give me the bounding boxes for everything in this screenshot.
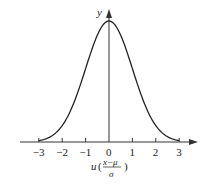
x-tick-label: 3 (176, 146, 182, 158)
x-axis-label-numerator: x−μ (102, 157, 118, 167)
x-axis-label-paren-open: ( (98, 160, 102, 173)
x-axis-label-paren-close: ) (124, 160, 128, 173)
x-ticks: −3−2−10123 (33, 138, 182, 158)
x-tick-label: −1 (80, 146, 92, 158)
x-tick-label: −2 (56, 146, 68, 158)
x-tick-label: 2 (153, 146, 159, 158)
y-axis-arrow-icon (106, 9, 112, 18)
normal-curve-chart: y −3−2−10123 u ( x−μ σ ) (0, 0, 210, 189)
x-tick-label: −3 (33, 146, 45, 158)
y-axis-label: y (96, 6, 102, 18)
x-axis-label-denominator: σ (109, 169, 114, 179)
x-tick-label: 1 (129, 146, 135, 158)
x-axis-arrow-icon (189, 139, 198, 145)
x-axis-label-var: u (91, 160, 97, 172)
